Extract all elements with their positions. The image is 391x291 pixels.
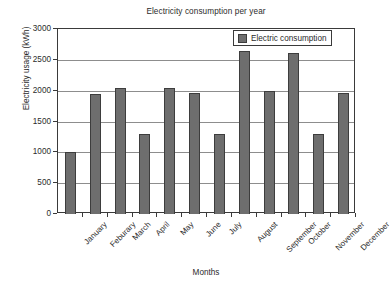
y-tick-label: 0 bbox=[11, 209, 51, 218]
bar bbox=[189, 93, 200, 214]
gridline bbox=[58, 122, 354, 123]
bar bbox=[139, 134, 150, 214]
gridline bbox=[58, 152, 354, 153]
y-tick-mark bbox=[53, 90, 57, 91]
legend-label-electric-consumption: Electric consumption bbox=[251, 34, 327, 43]
y-tick-mark bbox=[53, 59, 57, 60]
x-tick-mark bbox=[107, 213, 108, 217]
x-category-label: May bbox=[178, 220, 195, 237]
bar bbox=[264, 91, 275, 214]
x-tick-mark bbox=[256, 213, 257, 217]
y-tick-mark bbox=[53, 28, 57, 29]
chart-title: Electricity consumption per year bbox=[57, 7, 355, 16]
y-tick-label: 2500 bbox=[11, 54, 51, 63]
x-axis-title: Months bbox=[57, 268, 355, 277]
x-tick-mark bbox=[305, 213, 306, 217]
y-tick-label: 1500 bbox=[11, 116, 51, 125]
gridline bbox=[58, 91, 354, 92]
x-tick-mark bbox=[281, 213, 282, 217]
y-tick-mark bbox=[53, 213, 57, 214]
x-tick-mark bbox=[206, 213, 207, 217]
bar bbox=[65, 152, 76, 214]
bar bbox=[313, 134, 324, 214]
x-category-label: June bbox=[204, 220, 223, 239]
gridline bbox=[58, 60, 354, 61]
y-tick-mark bbox=[53, 151, 57, 152]
x-category-label: August bbox=[256, 220, 280, 244]
y-tick-label: 3000 bbox=[11, 24, 51, 33]
y-tick-label: 2000 bbox=[11, 85, 51, 94]
x-tick-mark bbox=[82, 213, 83, 217]
bar bbox=[164, 88, 175, 214]
gridline bbox=[58, 183, 354, 184]
bar bbox=[288, 53, 299, 214]
bar bbox=[214, 134, 225, 214]
x-tick-mark bbox=[181, 213, 182, 217]
x-tick-mark bbox=[330, 213, 331, 217]
x-tick-mark bbox=[132, 213, 133, 217]
plot-area bbox=[57, 28, 355, 213]
y-tick-mark bbox=[53, 182, 57, 183]
x-tick-mark bbox=[355, 213, 356, 217]
x-tick-mark bbox=[231, 213, 232, 217]
y-tick-mark bbox=[53, 121, 57, 122]
x-tick-mark bbox=[156, 213, 157, 217]
bar bbox=[90, 94, 101, 214]
bar bbox=[338, 93, 349, 214]
bar bbox=[115, 88, 126, 214]
chart-legend: Electric consumption bbox=[233, 30, 332, 46]
bar bbox=[239, 51, 250, 214]
legend-swatch-electric-consumption bbox=[238, 34, 247, 43]
y-tick-label: 1000 bbox=[11, 147, 51, 156]
y-tick-label: 500 bbox=[11, 178, 51, 187]
x-category-label: January bbox=[83, 220, 109, 246]
x-category-label: April bbox=[154, 220, 172, 238]
x-category-label: July bbox=[228, 220, 244, 236]
